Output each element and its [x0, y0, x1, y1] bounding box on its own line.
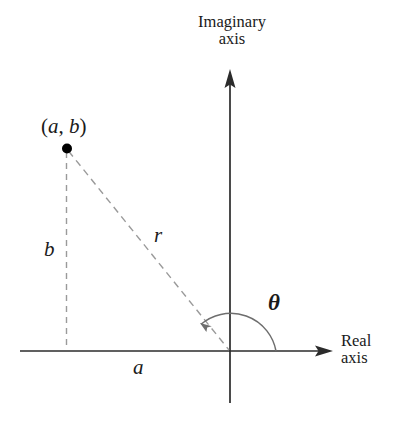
- vertical-leg-label: b: [44, 238, 55, 260]
- point-label-b: b: [69, 114, 80, 138]
- imaginary-axis-label-line1: Imaginary: [176, 13, 288, 30]
- angle-label: θ: [268, 291, 280, 315]
- complex-plane-diagram: Imaginary axis Real axis (a, b) b a r θ: [0, 0, 397, 425]
- point-label-a: a: [48, 114, 59, 138]
- real-axis: [20, 346, 333, 357]
- angle-arc: [200, 313, 276, 351]
- real-axis-label-line2: axis: [341, 349, 397, 366]
- real-axis-label: Real axis: [341, 332, 397, 367]
- point-marker: [62, 144, 72, 154]
- imaginary-axis-label: Imaginary axis: [176, 13, 288, 48]
- angle-arc-arrowhead: [200, 323, 212, 332]
- imaginary-axis-label-line2: axis: [176, 30, 288, 47]
- diagram-canvas: [0, 0, 397, 425]
- real-axis-label-line1: Real: [341, 332, 397, 349]
- point-label-close-paren: ): [80, 114, 87, 138]
- point-coordinate-label: (a, b): [41, 115, 87, 137]
- horizontal-leg-label: a: [133, 356, 144, 378]
- radius-dashed-line: [69, 151, 230, 350]
- radius-label: r: [154, 224, 162, 246]
- angle-arc-path: [201, 313, 276, 351]
- point-label-comma: ,: [59, 114, 70, 138]
- imaginary-axis: [225, 69, 236, 403]
- point-label-open-paren: (: [41, 114, 48, 138]
